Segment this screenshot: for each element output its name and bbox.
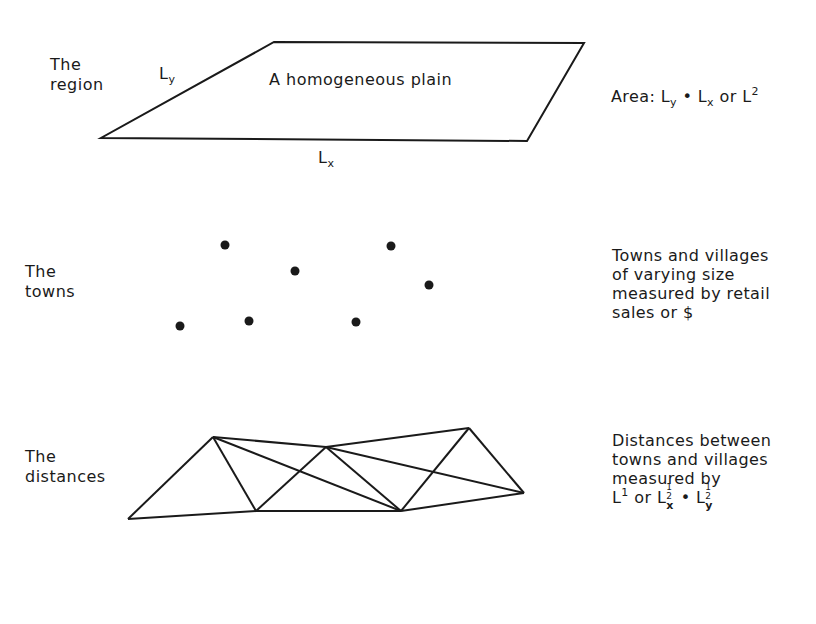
town-dot xyxy=(291,267,300,276)
area-description: Area: Ly • Lx or L2 xyxy=(611,87,759,108)
plain-label: A homogeneous plain xyxy=(269,70,452,90)
town-dot xyxy=(176,322,185,331)
town-dot xyxy=(352,318,361,327)
distance-network xyxy=(128,428,524,519)
distance-edge xyxy=(128,437,213,519)
distance-edge xyxy=(128,511,256,519)
town-dot xyxy=(425,281,434,290)
town-dot xyxy=(221,241,230,250)
town-points xyxy=(176,241,434,331)
lx-side-label: Lx xyxy=(318,148,334,170)
towns-label: The towns xyxy=(25,262,75,302)
distances-description: Distances between towns and villages mea… xyxy=(612,431,771,510)
town-dot xyxy=(387,242,396,251)
distances-label: The distances xyxy=(25,447,106,487)
distance-formula: L1 or L12x • L12y xyxy=(612,488,771,510)
town-dot xyxy=(245,317,254,326)
ly-side-label: Ly xyxy=(159,64,175,86)
distance-edge xyxy=(213,437,401,511)
distance-edge xyxy=(326,428,469,447)
distance-edge xyxy=(213,437,256,511)
distance-edge xyxy=(326,447,524,493)
region-plain-parallelogram xyxy=(101,42,584,141)
distance-edge xyxy=(213,437,326,447)
distance-edge xyxy=(469,428,524,493)
distance-edge xyxy=(401,493,524,511)
distance-edge xyxy=(256,447,326,511)
region-label: The region xyxy=(50,55,104,95)
distance-edge xyxy=(401,428,469,511)
towns-description: Towns and villages of varying size measu… xyxy=(612,246,770,322)
